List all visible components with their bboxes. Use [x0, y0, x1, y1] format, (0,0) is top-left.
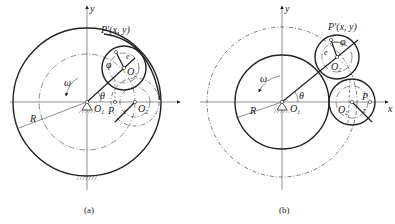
R-label-a: R — [29, 113, 36, 124]
figure-b: x y R θ ω — [200, 3, 393, 215]
pivot-ground-b — [274, 110, 290, 113]
point-o2-b — [350, 100, 353, 103]
p-label-b: P — [361, 91, 368, 102]
point-p-prime-a — [114, 50, 117, 53]
caption-b: (b) — [279, 205, 290, 215]
eccentric-e-a — [116, 52, 124, 68]
y-axis-label-a: y — [89, 3, 95, 14]
p-prime-label-a: P′(x, y) — [100, 24, 131, 36]
figure-a: y R θ ω — [10, 3, 180, 215]
R-label-b: R — [249, 105, 256, 116]
point-o1-a — [85, 100, 88, 103]
point-o1-b — [280, 100, 283, 103]
point-o2-a — [133, 100, 136, 103]
point-p-b — [368, 100, 371, 103]
theta-label-a: θ — [100, 90, 105, 101]
o1-label-a: O1 — [94, 103, 104, 115]
radius-r-line-b — [352, 102, 372, 122]
p-label-a: P — [107, 105, 114, 116]
caption-a: (a) — [84, 205, 94, 215]
theta-label-b: θ — [299, 90, 304, 101]
theta-arc-b — [295, 92, 298, 102]
omega-label-b: ω — [260, 73, 267, 84]
omega-label-a: ω — [64, 77, 71, 88]
ground-hatch-bottom-a — [76, 176, 98, 180]
p-prime-label-b: P′(x, y) — [327, 21, 358, 33]
point-o2prime-b — [335, 55, 338, 58]
r-label-a: r — [124, 107, 128, 116]
phi-label-b: φ — [340, 36, 346, 47]
o2-label-a: O2 — [138, 103, 148, 115]
point-o2prime-a — [122, 66, 125, 69]
pivot-ground-a — [79, 110, 95, 113]
diagram-canvas: y R θ ω — [0, 0, 395, 224]
e-label-b: e — [324, 48, 328, 57]
o2prime-label-a: O2′ — [127, 66, 139, 78]
x-axis-label-b: x — [387, 103, 393, 114]
r-label-b: r — [363, 106, 367, 115]
o2prime-label-b: O2′ — [331, 61, 343, 73]
y-axis-label-b: y — [284, 3, 290, 14]
e-label-a: e — [126, 52, 130, 61]
o2-label-b: O2 — [338, 104, 348, 116]
point-p-prime-b — [329, 38, 332, 41]
crank-arm-b — [282, 40, 358, 102]
phi-label-a: φ — [106, 59, 112, 70]
o1-label-b: O1 — [290, 103, 300, 115]
